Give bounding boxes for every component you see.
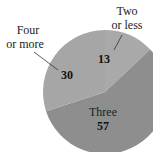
label-four-or-more-line2: or more xyxy=(6,37,44,51)
label-two-or-less-line1: Two xyxy=(116,4,137,18)
value-two-or-less: 13 xyxy=(98,52,110,66)
pie-slices xyxy=(43,30,153,152)
pie-chart: Two or less Four or more 13 30 Three 57 xyxy=(0,0,153,152)
label-two-or-less-line2: or less xyxy=(112,18,143,32)
label-four-or-more-line1: Four xyxy=(17,23,40,37)
value-three: 57 xyxy=(97,119,109,133)
value-four-or-more: 30 xyxy=(61,68,73,82)
label-three: Three xyxy=(89,105,117,119)
